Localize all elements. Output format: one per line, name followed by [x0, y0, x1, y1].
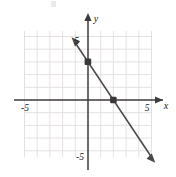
- point-x-intercept: [110, 97, 117, 104]
- point-y-intercept: [85, 59, 92, 66]
- x-axis-arrow-right: [155, 96, 163, 103]
- coordinate-plane-svg: 5 -5 -5 5 x y: [0, 0, 176, 177]
- axis-lines: [14, 16, 163, 170]
- y-axis-label: y: [93, 13, 99, 24]
- x-tick-label-5: 5: [145, 103, 150, 113]
- y-tick-label-minus-5: -5: [76, 152, 84, 162]
- line-arrow-lower-right: [147, 154, 156, 163]
- graph-figure: 5 -5 -5 5 x y: [0, 0, 176, 177]
- y-tick-label-5: 5: [74, 36, 79, 46]
- x-tick-label-minus-5: -5: [21, 103, 29, 113]
- y-axis-arrow-up: [84, 13, 91, 21]
- x-axis-label: x: [163, 100, 169, 111]
